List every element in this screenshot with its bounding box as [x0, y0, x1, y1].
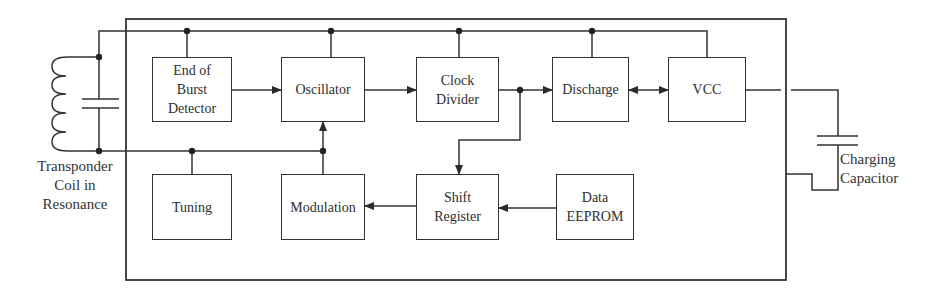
block-label: Data EEPROM — [567, 188, 624, 226]
block-label: Modulation — [290, 198, 355, 217]
block-label: End of Burst Detector — [168, 61, 216, 118]
transponder-coil-icon — [52, 57, 68, 151]
block-tuning: Tuning — [152, 174, 232, 240]
charging-capacitor-label: Charging Capacitor — [840, 150, 930, 188]
block-clock-divider: Clock Divider — [416, 57, 499, 122]
block-label: Oscillator — [295, 80, 350, 99]
block-label: Shift Register — [434, 188, 481, 226]
top-bus-line — [99, 31, 707, 57]
block-label: VCC — [693, 80, 722, 99]
block-vcc: VCC — [668, 57, 746, 122]
block-oscillator: Oscillator — [281, 57, 365, 122]
block-discharge: Discharge — [552, 57, 629, 122]
block-label: Clock Divider — [436, 71, 479, 109]
coil-label: Transponder Coil in Resonance — [22, 157, 128, 214]
block-label: Tuning — [172, 198, 212, 217]
block-data-eeprom: Data EEPROM — [556, 174, 634, 240]
block-end-of-burst-detector: End of Burst Detector — [152, 57, 232, 122]
diagram-wiring — [0, 0, 949, 308]
block-shift-register: Shift Register — [416, 174, 499, 240]
block-label: Discharge — [562, 80, 619, 99]
block-modulation: Modulation — [281, 174, 365, 240]
